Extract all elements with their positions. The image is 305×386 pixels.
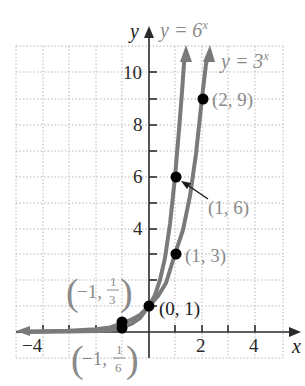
y-tick-label: 10 xyxy=(123,62,142,83)
svg-text:1: 1 xyxy=(116,342,123,357)
y-axis-arrow-icon xyxy=(144,26,154,38)
label-2-9: (2, 9) xyxy=(212,89,253,111)
x-tick-label: −4 xyxy=(22,335,43,356)
y-axis-label: y xyxy=(128,20,139,43)
label-0-1: (0, 1) xyxy=(159,298,200,320)
label-neg1-third: ( −1, 1 3 ) xyxy=(66,271,133,314)
svg-text:): ) xyxy=(120,271,133,314)
y-tick-label: 4 xyxy=(133,218,143,239)
label-1-6: (1, 6) xyxy=(208,197,249,219)
svg-text:): ) xyxy=(126,338,139,381)
y-tick-label: 6 xyxy=(133,166,143,187)
curve-3x-arrow-icon xyxy=(203,45,215,62)
x-axis-label: x xyxy=(291,335,301,357)
point-1-6 xyxy=(171,172,182,183)
svg-text:3: 3 xyxy=(109,292,116,307)
y-tick-label: 8 xyxy=(133,114,143,135)
point-1-3 xyxy=(171,249,182,260)
curves xyxy=(26,56,208,332)
exponential-graph: −4 2 4 4 6 8 10 y x y = 6x y = 3x xyxy=(0,0,305,386)
curve-6x-arrow-icon xyxy=(180,45,192,62)
label-1-3: (1, 3) xyxy=(185,245,226,267)
svg-text:−1,: −1, xyxy=(77,281,102,302)
x-tick-label: 4 xyxy=(249,335,259,356)
svg-text:1: 1 xyxy=(110,274,117,289)
point-0-1 xyxy=(144,301,155,312)
label-neg1-sixth: ( −1, 1 6 ) xyxy=(71,338,139,381)
svg-text:−1,: −1, xyxy=(82,348,107,369)
point-2-9 xyxy=(198,94,209,105)
pointer-arrow-icon xyxy=(181,181,208,199)
point-neg1-sixth xyxy=(117,323,128,334)
equation-6x-label: y = 6x xyxy=(158,18,208,42)
x-tick-label: 2 xyxy=(196,335,206,356)
equation-3x-label: y = 3x xyxy=(219,49,269,73)
svg-text:6: 6 xyxy=(115,360,122,375)
